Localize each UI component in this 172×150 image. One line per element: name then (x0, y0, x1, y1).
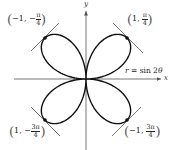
point-q1 (125, 36, 129, 40)
y-axis-label: y (84, 1, 88, 8)
theta-symbol: θ (158, 66, 163, 75)
x-axis-label: x (164, 75, 168, 82)
point-label-q1: (1, π4) (127, 12, 153, 26)
point-q2 (43, 36, 47, 40)
point-q3 (43, 118, 47, 122)
curve-equation-label: r = sin 2θ (125, 67, 162, 75)
equation-op: = sin 2 (129, 66, 158, 75)
point-q4 (125, 118, 129, 122)
point-label-q4: (−1, 3π4) (124, 124, 160, 138)
point-label-q3: (1, −3π4) (9, 124, 45, 138)
point-label-q2: (−1, −π4) (7, 12, 46, 26)
